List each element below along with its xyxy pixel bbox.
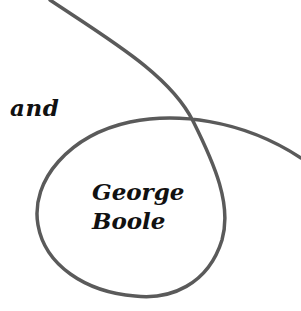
label-george: George bbox=[92, 177, 184, 206]
self-intersecting-loop-curve bbox=[37, 0, 301, 297]
label-george-boole: George Boole bbox=[92, 177, 184, 235]
label-boole: Boole bbox=[92, 206, 184, 235]
label-and: and bbox=[10, 96, 59, 119]
loop-curve-diagram bbox=[0, 0, 301, 311]
